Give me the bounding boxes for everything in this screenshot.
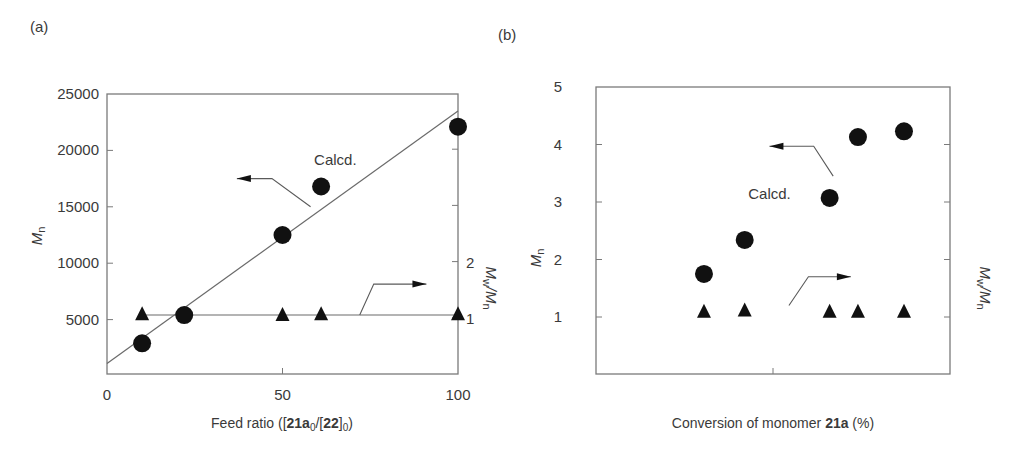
y-tick-label: 4 — [554, 136, 562, 153]
x-axis-label-part: Conversion of monomer — [672, 415, 825, 431]
y2-tick-label: 1 — [466, 310, 474, 327]
mwmn-data-point — [276, 307, 290, 321]
mn-data-point — [133, 334, 151, 352]
mn-data-point — [849, 128, 867, 146]
arrow-left-icon — [769, 143, 783, 150]
mn-data-point — [736, 231, 754, 249]
mwmn-data-point — [823, 304, 837, 318]
y-tick-label: 20000 — [57, 141, 99, 158]
mwmn-data-point — [314, 306, 328, 320]
panel-b-y-axis-label-main: M — [527, 254, 544, 267]
panel-b-y-ticks: 12345 — [554, 78, 602, 325]
x-axis-label-part: (%) — [848, 415, 874, 431]
y2-axis-label-part: w — [481, 278, 493, 287]
y-tick-label: 15000 — [57, 198, 99, 215]
panel-a-x-axis-label: Feed ratio ([21a0/[22]0) — [211, 415, 353, 433]
panel-b-label: (b) — [498, 26, 516, 43]
panel-a-annotations: Calcd. — [237, 151, 427, 315]
mn-data-point — [312, 177, 330, 195]
y2-axis-label-part: M — [483, 266, 500, 279]
panel-b: (b) 12345 Calcd. Conversion of monomer 2… — [498, 26, 994, 431]
mn-data-point — [821, 189, 839, 207]
panel-a: (a) 050100 500010000150002000025000 12 C… — [28, 18, 500, 433]
panel-b-y2-axis-label: Mw/Mn — [975, 266, 994, 309]
panel-b-y-axis-label: Mn — [527, 249, 546, 268]
y-tick-label: 10000 — [57, 254, 99, 271]
x-axis-label-part: 21a — [287, 415, 311, 431]
arrow-right-icon — [412, 281, 426, 288]
x-axis-label-part: 21a — [825, 415, 849, 431]
y-tick-label: 1 — [554, 308, 562, 325]
mwmn-data-point — [451, 306, 465, 320]
panel-a-marks — [133, 118, 467, 353]
calcd-label: Calcd. — [748, 185, 791, 202]
x-tick-label: 100 — [445, 386, 470, 403]
calcd-label: Calcd. — [314, 151, 357, 168]
y-tick-label: 2 — [554, 251, 562, 268]
x-axis-label-part: 22 — [323, 415, 339, 431]
panel-a-y-axis-label-main: M — [28, 232, 45, 245]
mn-data-point — [175, 306, 193, 324]
y2-axis-label-part: M — [483, 291, 500, 304]
y2-axis-label-part: M — [977, 266, 994, 279]
y2-axis-label-part: n — [975, 304, 987, 310]
arrow-line — [360, 284, 427, 315]
panel-b-y2-ticks — [944, 145, 950, 318]
panel-b-annotations: Calcd. — [748, 143, 851, 306]
y-tick-label: 5000 — [66, 311, 99, 328]
panel-a-y2-ticks: 12 — [452, 149, 474, 327]
y2-axis-label-part: M — [977, 291, 994, 304]
y-tick-label: 5 — [554, 78, 562, 95]
panel-b-y-axis-label-sub: n — [534, 249, 546, 255]
panel-a-x-ticks: 050100 — [103, 368, 471, 403]
y-tick-label: 25000 — [57, 85, 99, 102]
panel-a-y-axis-label-sub: n — [35, 227, 47, 233]
mwmn-data-point — [697, 304, 711, 318]
mwmn-data-point — [897, 304, 911, 318]
mn-data-point — [449, 118, 467, 136]
y-tick-label: 3 — [554, 193, 562, 210]
y2-tick-label: 2 — [466, 254, 474, 271]
y2-axis-label-part: w — [975, 278, 987, 287]
x-axis-label-part: Feed ratio ([ — [211, 415, 287, 431]
x-tick-label: 50 — [274, 386, 291, 403]
mn-data-point — [274, 226, 292, 244]
mwmn-data-point — [738, 303, 752, 317]
mwmn-data-point — [135, 306, 149, 320]
panel-a-y2-axis-label: Mw/Mn — [481, 266, 500, 309]
panel-b-x-axis-label: Conversion of monomer 21a (%) — [672, 415, 874, 431]
mn-data-point — [695, 265, 713, 283]
arrow-line — [769, 146, 833, 176]
y2-axis-label-part: n — [481, 304, 493, 310]
arrow-line — [237, 179, 311, 207]
x-tick-label: 0 — [103, 386, 111, 403]
arrow-left-icon — [237, 175, 251, 182]
mn-data-point — [895, 122, 913, 140]
figure: (a) 050100 500010000150002000025000 12 C… — [0, 0, 1024, 451]
x-axis-label-part: ) — [348, 415, 353, 431]
panel-a-y-ticks: 500010000150002000025000 — [57, 85, 113, 328]
x-axis-label-part: /[ — [315, 415, 323, 431]
panel-a-label: (a) — [30, 18, 48, 35]
panel-a-y-axis-label: Mn — [28, 227, 47, 246]
arrow-right-icon — [837, 273, 851, 280]
panel-b-marks — [695, 122, 913, 317]
arrow-line — [789, 277, 851, 306]
mwmn-data-point — [851, 304, 865, 318]
